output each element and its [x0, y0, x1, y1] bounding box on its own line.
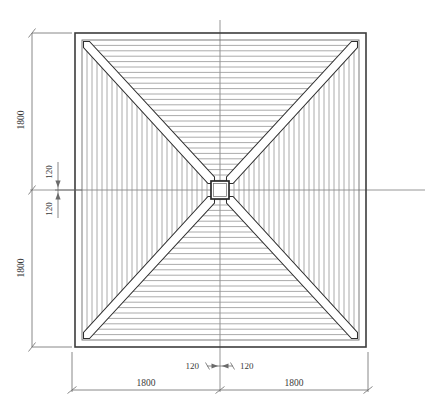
plan-svg: 1800 1800 120 120 120 120 [0, 0, 438, 410]
dim-label-left-lower: 1800 [16, 258, 26, 277]
king-post [211, 181, 229, 199]
dim-label-left-upper: 1800 [16, 110, 26, 129]
dim-label-bottom-left: 1800 [137, 378, 156, 388]
dim-label-center-lower: 120 [44, 202, 54, 216]
dim-label-bottom-right: 1800 [285, 378, 304, 388]
king-post-inner [214, 184, 227, 197]
hip-roof-plan-drawing: 1800 1800 120 120 120 120 [0, 0, 438, 410]
dim-label-center-upper: 120 [44, 165, 54, 179]
dim-label-center-left: 120 [186, 361, 200, 371]
dim-label-center-right: 120 [240, 361, 254, 371]
